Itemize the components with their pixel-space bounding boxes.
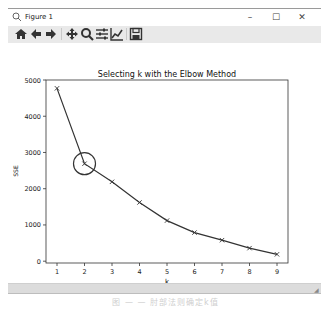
x-tick-label: 3 <box>110 268 114 276</box>
axes-frame <box>46 80 288 263</box>
line-chart-icon <box>110 27 124 41</box>
resize-grip-icon[interactable]: ◢ <box>314 287 320 293</box>
figure-caption: 图 — — 肘部法则确定k值 <box>0 296 331 307</box>
arrow-left-icon <box>29 27 43 41</box>
home-button[interactable] <box>14 27 28 41</box>
title-bar[interactable]: Figure 1 – ☐ ✕ <box>8 9 321 26</box>
zoom-button[interactable] <box>80 27 94 41</box>
x-tick-label: 4 <box>137 268 141 276</box>
figure-window: Figure 1 – ☐ ✕ Se <box>8 8 321 293</box>
x-tick-label: 8 <box>247 268 251 276</box>
move-icon <box>65 27 79 41</box>
elbow-chart: Selecting k with the Elbow Method 010002… <box>8 43 321 283</box>
save-button[interactable] <box>129 27 143 41</box>
arrow-right-icon <box>44 27 58 41</box>
window-title: Figure 1 <box>25 12 53 22</box>
navigation-toolbar <box>8 26 321 43</box>
x-tick-label: 6 <box>192 268 196 276</box>
sliders-icon <box>95 27 109 41</box>
y-tick-label: 0 <box>37 258 41 266</box>
y-tick-label: 4000 <box>24 113 41 121</box>
minimize-button[interactable]: – <box>238 10 262 24</box>
home-icon <box>14 27 28 41</box>
forward-button[interactable] <box>44 27 58 41</box>
matplotlib-figure-icon <box>12 12 22 22</box>
chart-title: Selecting k with the Elbow Method <box>98 70 236 79</box>
y-axis-label: SSE <box>12 165 19 177</box>
magnifier-icon <box>80 27 94 41</box>
toolbar-separator <box>126 28 127 40</box>
y-tick-label: 2000 <box>24 185 41 193</box>
subplots-button[interactable] <box>95 27 109 41</box>
edit-parameters-button[interactable] <box>110 27 124 41</box>
x-tick-label: 1 <box>55 268 59 276</box>
x-tick-label: 9 <box>275 268 279 276</box>
x-tick-label: 2 <box>82 268 86 276</box>
toolbar-separator <box>61 28 62 40</box>
back-button[interactable] <box>29 27 43 41</box>
x-tick-label: 5 <box>165 268 169 276</box>
pan-button[interactable] <box>65 27 79 41</box>
close-button[interactable]: ✕ <box>290 10 314 24</box>
y-tick-label: 1000 <box>24 221 41 229</box>
maximize-button[interactable]: ☐ <box>264 10 288 24</box>
status-bar: ◢ <box>8 283 321 294</box>
y-tick-label: 5000 <box>24 77 41 85</box>
y-tick-label: 3000 <box>24 149 41 157</box>
x-axis-ticks: 123456789 <box>55 263 279 276</box>
y-axis-ticks: 010002000300040005000 <box>24 77 46 266</box>
x-tick-label: 7 <box>220 268 224 276</box>
figure-canvas[interactable]: Selecting k with the Elbow Method 010002… <box>8 43 321 283</box>
floppy-disk-icon <box>129 27 143 41</box>
